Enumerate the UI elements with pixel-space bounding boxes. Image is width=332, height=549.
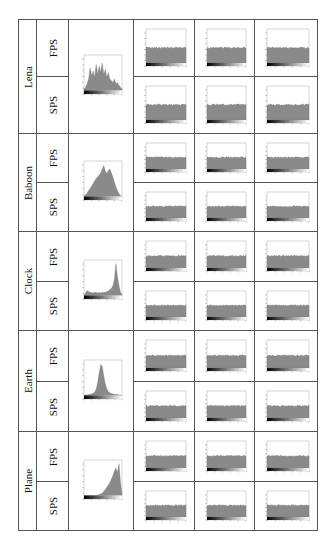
- scheme-cell: SPS: [37, 77, 69, 134]
- encrypted-histogram-cell: [134, 77, 195, 134]
- scheme-label: SPS: [47, 96, 59, 114]
- encrypted-histogram-chart: [262, 439, 311, 477]
- encrypted-histogram-cell: [255, 20, 318, 77]
- encrypted-histogram-chart: [202, 389, 248, 427]
- scheme-label: FPS: [47, 347, 59, 365]
- encrypted-histogram-cell: [134, 134, 195, 183]
- encrypted-histogram-cell: [134, 232, 195, 282]
- encrypted-histogram-chart: [141, 489, 188, 526]
- encrypted-histogram-cell: [195, 232, 255, 282]
- encrypted-histogram-chart: [202, 27, 248, 72]
- encrypted-histogram-chart: [262, 389, 311, 427]
- encrypted-histogram-chart: [141, 439, 188, 477]
- encrypted-histogram-cell: [255, 134, 318, 183]
- encrypted-histogram-cell: [195, 77, 255, 134]
- encrypted-histogram-cell: [195, 282, 255, 331]
- encrypted-histogram-cell: [134, 382, 195, 432]
- image-name-cell: Clock: [19, 232, 37, 331]
- image-name-cell: Earth: [19, 331, 37, 432]
- encrypted-histogram-cell: [255, 382, 318, 432]
- original-histogram-chart: [78, 258, 124, 306]
- scheme-cell: FPS: [37, 432, 69, 482]
- encrypted-histogram-chart: [262, 489, 311, 526]
- encrypted-histogram-cell: [195, 331, 255, 382]
- scheme-label: SPS: [47, 397, 59, 415]
- image-name-cell: Baboon: [19, 134, 37, 232]
- image-name-label: Clock: [22, 268, 34, 294]
- scheme-cell: FPS: [37, 232, 69, 282]
- scheme-cell: SPS: [37, 482, 69, 531]
- encrypted-histogram-cell: [195, 482, 255, 531]
- encrypted-histogram-cell: [255, 432, 318, 482]
- scheme-label: FPS: [47, 39, 59, 57]
- encrypted-histogram-chart: [141, 141, 188, 178]
- original-histogram-cell: [69, 20, 134, 134]
- image-name-label: Baboon: [22, 165, 34, 199]
- encrypted-histogram-cell: [134, 20, 195, 77]
- encrypted-histogram-chart: [262, 338, 311, 377]
- image-name-cell: Plane: [19, 432, 37, 531]
- encrypted-histogram-cell: [255, 183, 318, 232]
- original-histogram-chart: [78, 458, 124, 506]
- encrypted-histogram-cell: [134, 482, 195, 531]
- encrypted-histogram-chart: [202, 84, 248, 129]
- encrypted-histogram-cell: [195, 183, 255, 232]
- encrypted-histogram-chart: [141, 289, 188, 326]
- scheme-cell: FPS: [37, 331, 69, 382]
- image-name-cell: Lena: [19, 20, 37, 134]
- encrypted-histogram-chart: [202, 439, 248, 477]
- encrypted-histogram-chart: [141, 239, 188, 277]
- histogram-table: LenaFPSSPSBaboonFPSSPSClockFPSSPSEarthFP…: [18, 19, 318, 531]
- scheme-cell: FPS: [37, 134, 69, 183]
- image-name-label: Lena: [22, 66, 34, 88]
- original-histogram-cell: [69, 331, 134, 432]
- scheme-label: SPS: [47, 297, 59, 315]
- encrypted-histogram-cell: [255, 331, 318, 382]
- encrypted-histogram-chart: [141, 190, 188, 227]
- encrypted-histogram-chart: [141, 27, 188, 72]
- encrypted-histogram-chart: [262, 141, 311, 178]
- encrypted-histogram-cell: [255, 77, 318, 134]
- encrypted-histogram-chart: [262, 239, 311, 277]
- encrypted-histogram-chart: [262, 84, 311, 129]
- encrypted-histogram-chart: [202, 489, 248, 526]
- encrypted-histogram-cell: [255, 482, 318, 531]
- encrypted-histogram-chart: [262, 289, 311, 326]
- image-name-label: Earth: [22, 369, 34, 393]
- scheme-cell: FPS: [37, 20, 69, 77]
- encrypted-histogram-cell: [195, 134, 255, 183]
- scheme-label: SPS: [47, 497, 59, 515]
- encrypted-histogram-cell: [255, 232, 318, 282]
- original-histogram-chart: [78, 159, 124, 207]
- encrypted-histogram-cell: [134, 282, 195, 331]
- scheme-label: FPS: [47, 247, 59, 265]
- encrypted-histogram-cell: [195, 432, 255, 482]
- encrypted-histogram-chart: [141, 84, 188, 129]
- original-histogram-chart: [78, 53, 124, 101]
- encrypted-histogram-chart: [202, 338, 248, 377]
- original-histogram-cell: [69, 232, 134, 331]
- scheme-cell: SPS: [37, 382, 69, 432]
- encrypted-histogram-chart: [141, 389, 188, 427]
- original-histogram-chart: [78, 358, 124, 406]
- encrypted-histogram-chart: [202, 239, 248, 277]
- encrypted-histogram-chart: [202, 190, 248, 227]
- original-histogram-cell: [69, 134, 134, 232]
- encrypted-histogram-chart: [262, 190, 311, 227]
- scheme-cell: SPS: [37, 282, 69, 331]
- encrypted-histogram-cell: [195, 20, 255, 77]
- scheme-label: FPS: [47, 149, 59, 167]
- scheme-label: FPS: [47, 447, 59, 465]
- encrypted-histogram-chart: [141, 338, 188, 377]
- encrypted-histogram-chart: [262, 27, 311, 72]
- encrypted-histogram-cell: [134, 331, 195, 382]
- scheme-cell: SPS: [37, 183, 69, 232]
- encrypted-histogram-chart: [202, 289, 248, 326]
- encrypted-histogram-cell: [195, 382, 255, 432]
- encrypted-histogram-cell: [134, 432, 195, 482]
- encrypted-histogram-chart: [202, 141, 248, 178]
- encrypted-histogram-cell: [134, 183, 195, 232]
- image-name-label: Plane: [22, 469, 34, 493]
- scheme-label: SPS: [47, 198, 59, 216]
- original-histogram-cell: [69, 432, 134, 531]
